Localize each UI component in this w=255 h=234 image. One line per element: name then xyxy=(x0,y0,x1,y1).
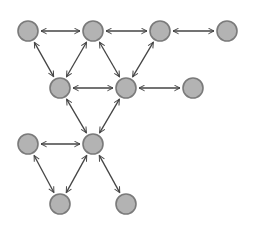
edge-n9-n11 xyxy=(99,155,119,192)
node-n11 xyxy=(116,194,136,214)
edge-n3-n6 xyxy=(133,42,154,77)
node-n3 xyxy=(150,21,170,41)
node-n2 xyxy=(83,21,103,41)
edge-n6-n9 xyxy=(100,99,120,133)
node-layer xyxy=(18,21,237,214)
edge-n8-n10 xyxy=(34,155,54,192)
edge-n9-n10 xyxy=(66,155,86,192)
edge-n1-n5 xyxy=(34,42,53,76)
node-n10 xyxy=(50,194,70,214)
edge-n5-n9 xyxy=(67,99,87,133)
edge-n2-n5 xyxy=(67,42,87,76)
node-n7 xyxy=(183,78,203,98)
node-n6 xyxy=(116,78,136,98)
network-diagram xyxy=(0,0,255,234)
node-n8 xyxy=(18,134,38,154)
edge-n2-n6 xyxy=(100,42,120,76)
node-n4 xyxy=(217,21,237,41)
node-n5 xyxy=(50,78,70,98)
edge-layer xyxy=(34,31,214,193)
node-n1 xyxy=(18,21,38,41)
node-n9 xyxy=(83,134,103,154)
